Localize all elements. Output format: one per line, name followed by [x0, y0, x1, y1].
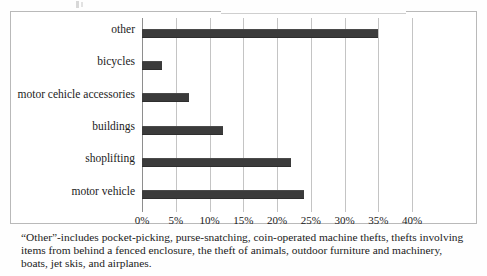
category-label: motor cehicle accessories	[18, 87, 136, 101]
frame-border-break-line	[221, 13, 406, 14]
caption-line-1: “Other”-includes pocket-picking, purse-s…	[21, 231, 473, 244]
x-tick-label: 5%	[168, 214, 183, 227]
bar-row: motor cehicle accessories	[142, 83, 429, 115]
x-tick-label: 0%	[135, 214, 150, 227]
x-tick-label: 20%	[267, 214, 287, 227]
bar-row: motor vehicle	[142, 180, 429, 212]
bar-chart-plot-area: otherbicyclesmotor cehicle accessoriesbu…	[142, 18, 429, 212]
bar	[142, 126, 223, 135]
x-tick-label: 25%	[301, 214, 321, 227]
category-label: shoplifting	[85, 151, 135, 165]
bar	[142, 29, 378, 38]
page-canvas: otherbicyclesmotor cehicle accessoriesbu…	[0, 0, 487, 276]
x-tick-label: 10%	[199, 214, 219, 227]
caption-line-3: boats, jet skis, and airplanes.	[21, 257, 473, 270]
bar	[142, 190, 304, 199]
category-label: buildings	[92, 119, 135, 133]
bar	[142, 93, 189, 102]
category-label: bicycles	[97, 54, 135, 68]
scan-artifact-mark-secondary	[81, 2, 83, 7]
x-tick-label: 40%	[402, 214, 422, 227]
scan-artifact-mark	[76, 1, 79, 8]
category-label: other	[111, 22, 135, 36]
x-tick-label: 30%	[334, 214, 354, 227]
bar-row: shoplifting	[142, 147, 429, 179]
bar	[142, 158, 291, 167]
caption-line-2: items from behind a fenced enclosure, th…	[21, 244, 473, 257]
bar	[142, 61, 162, 70]
chart-footnote-caption: “Other”-includes pocket-picking, purse-s…	[21, 231, 473, 271]
bar-row: other	[142, 18, 429, 50]
x-tick-label: 35%	[368, 214, 388, 227]
bar-row: buildings	[142, 115, 429, 147]
category-label: motor vehicle	[71, 184, 135, 198]
chart-frame: otherbicyclesmotor cehicle accessoriesbu…	[10, 11, 477, 224]
x-tick-label: 15%	[233, 214, 253, 227]
bar-row: bicycles	[142, 50, 429, 82]
